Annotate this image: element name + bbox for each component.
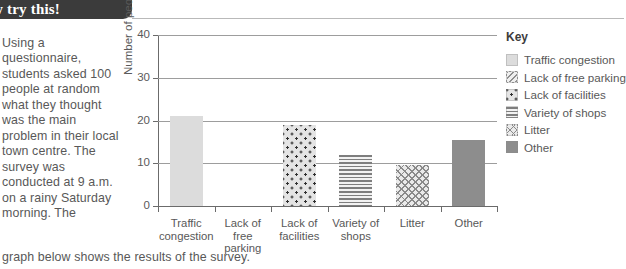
legend-item-label: Lack of free parking xyxy=(524,71,626,84)
x-axis-category-label: Other xyxy=(441,217,498,230)
legend-swatch-icon xyxy=(506,141,518,153)
y-axis-tick xyxy=(153,78,158,79)
y-axis-tick xyxy=(153,35,158,36)
bar xyxy=(283,125,316,206)
x-axis-tick xyxy=(441,206,442,212)
x-axis-tick xyxy=(384,206,385,212)
x-axis-tick xyxy=(215,206,216,212)
x-axis-tick xyxy=(158,206,159,212)
legend-item-label: Litter xyxy=(524,123,550,136)
y-axis-tick-label: 0 xyxy=(90,199,150,211)
bar xyxy=(170,116,203,206)
bar xyxy=(452,140,485,206)
y-axis-tick-label: 10 xyxy=(90,156,150,168)
legend-item-label: Traffic congestion xyxy=(524,53,615,66)
y-axis-tick-label: 40 xyxy=(90,28,150,40)
legend-item: Lack of free parking xyxy=(506,69,624,87)
legend-items: Traffic congestionLack of free parkingLa… xyxy=(506,51,624,156)
y-axis-tick xyxy=(153,121,158,122)
x-axis-category-label: Lack of facilities xyxy=(271,217,328,242)
legend-swatch-icon xyxy=(506,124,518,136)
gridline xyxy=(158,163,497,164)
legend-swatch-icon xyxy=(506,71,518,83)
legend-item: Other xyxy=(506,139,624,157)
legend: Key Traffic congestionLack of free parki… xyxy=(506,30,624,156)
legend-item: Variety of shops xyxy=(506,104,624,122)
legend-item-label: Lack of facilities xyxy=(524,88,606,101)
legend-item: Traffic congestion xyxy=(506,51,624,69)
y-axis-tick-label: 20 xyxy=(90,114,150,126)
legend-item-label: Variety of shops xyxy=(524,106,606,119)
legend-swatch-icon xyxy=(506,89,518,101)
gridline xyxy=(158,78,497,79)
legend-swatch-icon xyxy=(506,54,518,66)
x-axis-category-label: Traffic congestion xyxy=(158,217,215,242)
x-axis-category-label: Variety of shops xyxy=(328,217,385,242)
legend-swatch-icon xyxy=(506,106,518,118)
plot-area xyxy=(158,35,497,207)
legend-item-label: Other xyxy=(524,141,553,154)
legend-item: Litter xyxy=(506,121,624,139)
bar xyxy=(396,165,429,206)
gridline xyxy=(158,35,497,36)
y-axis-tick-label: 30 xyxy=(90,71,150,83)
bar xyxy=(339,155,372,206)
gridline xyxy=(158,121,497,122)
legend-title: Key xyxy=(506,30,624,44)
y-axis-tick xyxy=(153,163,158,164)
x-axis-category-label: Litter xyxy=(384,217,441,230)
x-axis-tick xyxy=(271,206,272,212)
x-axis-tick xyxy=(328,206,329,212)
x-axis-tick xyxy=(497,206,498,212)
legend-item: Lack of facilities xyxy=(506,86,624,104)
x-axis-category-label: Lack of free parking xyxy=(215,217,272,255)
